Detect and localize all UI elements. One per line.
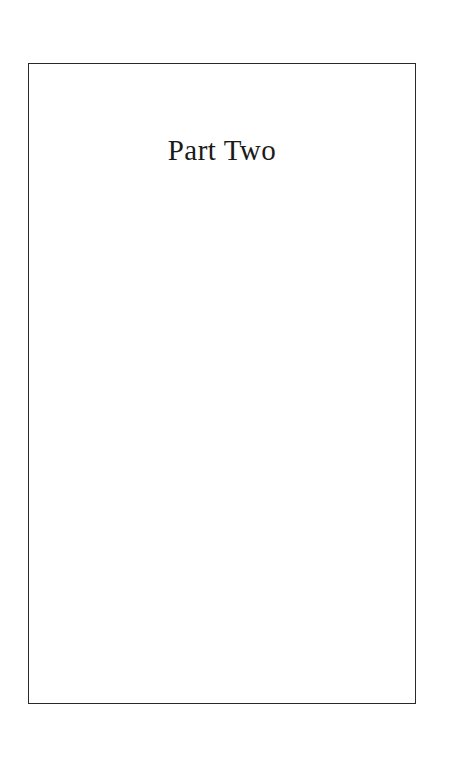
part-title: Part Two — [29, 134, 415, 167]
page-border-frame: Part Two — [28, 63, 416, 704]
